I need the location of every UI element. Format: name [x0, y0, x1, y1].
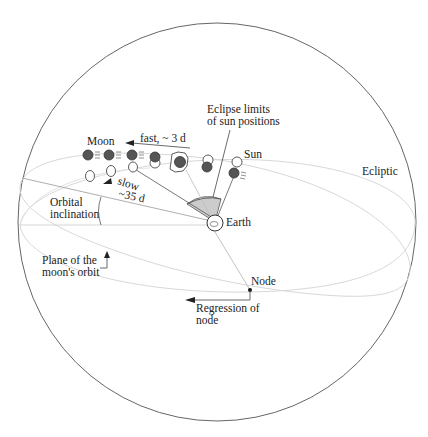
plane-of-orbit-label: Plane of the	[42, 254, 97, 266]
ecliptic-label: Ecliptic	[362, 165, 398, 178]
fast-label: fast, ~ 3 d	[140, 132, 186, 145]
eclipse-limits-label-2: of sun positions	[207, 115, 280, 128]
moon-icon	[83, 150, 100, 160]
sun-sequence	[150, 152, 246, 179]
moon-icon	[127, 150, 144, 160]
sun-label: Sun	[244, 148, 262, 160]
slow-duration-label: ~35 d	[118, 187, 147, 204]
earth-sun-line	[217, 176, 234, 218]
node-line	[215, 232, 250, 290]
moon-sequence	[83, 150, 144, 182]
plane-pointer	[100, 251, 110, 268]
total-eclipse-icon	[170, 152, 188, 172]
slow-moon-icon	[129, 162, 138, 172]
moon-label: Moon	[87, 135, 115, 147]
orbital-inclination-label: Orbital	[50, 196, 83, 208]
slow-arrow-icon	[103, 178, 112, 184]
node-label: Node	[251, 275, 276, 287]
eclipse-diagram: Moon fast, ~ 3 d slow ~35 d Eclipse limi…	[0, 0, 428, 437]
moon-icon	[104, 150, 121, 160]
partial-eclipse-icon	[150, 152, 160, 168]
slow-moon-icon	[107, 166, 116, 177]
plane-of-orbit-label-2: moon's orbit	[42, 266, 100, 278]
eclipse-limits-pointer	[213, 130, 230, 197]
sun-icon	[229, 157, 246, 179]
slow-moon-icon	[86, 171, 95, 182]
orbital-inclination-label-2: inclination	[50, 208, 99, 220]
earth-label: Earth	[226, 216, 251, 228]
diagram-canvas: Moon fast, ~ 3 d slow ~35 d Eclipse limi…	[0, 0, 428, 437]
earth	[207, 215, 223, 231]
partial-eclipse-icon	[202, 155, 213, 172]
regression-label-2: node	[196, 314, 218, 326]
